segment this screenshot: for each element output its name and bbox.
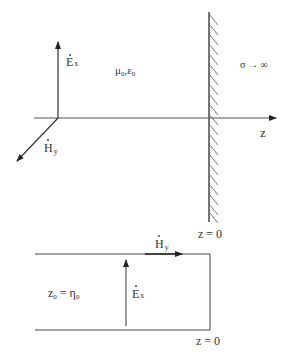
upper-diagram: Ex Hy μ0,ε0 σ → ∞ z z = 0 — [17, 12, 276, 241]
axis-label-z: z — [260, 125, 266, 140]
boundary-label-lower: z = 0 — [196, 334, 220, 348]
medium-label: μ0,ε0 — [115, 64, 136, 78]
conductor-label: σ → ∞ — [240, 59, 268, 70]
impedance-label: z0 = η0 — [48, 286, 80, 301]
diagram-canvas: Ex Hy μ0,ε0 σ → ∞ z z = 0 Hy Ex z0 = η0 … — [0, 0, 291, 359]
lower-diagram: Hy Ex z0 = η0 z = 0 — [35, 235, 220, 348]
h-field-label: Hy — [44, 141, 58, 156]
e-field-label: Ex — [66, 55, 78, 69]
h-field-label-lower: Hy — [155, 237, 169, 252]
boundary-label-upper: z = 0 — [198, 227, 222, 241]
e-field-label-lower: Ex — [132, 287, 144, 301]
